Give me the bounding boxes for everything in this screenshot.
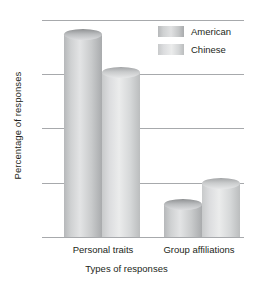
bar-chinese-group-affiliations <box>202 183 240 237</box>
axis-baseline-0 <box>42 237 244 238</box>
bar-american-group-affiliations <box>164 204 202 237</box>
legend-label-american: American <box>191 26 231 37</box>
bar-chart: Percentage of responses 80 60 40 20 0 Pe… <box>0 0 253 284</box>
bar-top-ellipse <box>102 67 140 78</box>
american-swatch-icon <box>158 26 184 37</box>
bar-top-ellipse <box>202 178 240 189</box>
y-axis-title: Percentage of responses <box>12 41 23 211</box>
legend-entry-chinese: Chinese <box>158 44 250 55</box>
legend-entry-american: American <box>158 26 250 37</box>
legend: American Chinese <box>158 26 250 62</box>
bar-american-personal-traits <box>64 34 102 237</box>
bar-top-ellipse <box>64 29 102 40</box>
x-category-label-group-affiliations: Group affiliations <box>140 244 253 255</box>
gridline-80 <box>42 20 244 21</box>
bar-chinese-personal-traits <box>102 72 140 237</box>
bar-top-ellipse <box>164 199 202 210</box>
x-axis-title: Types of responses <box>0 263 253 274</box>
chinese-swatch-icon <box>158 44 184 55</box>
legend-label-chinese: Chinese <box>191 44 226 55</box>
